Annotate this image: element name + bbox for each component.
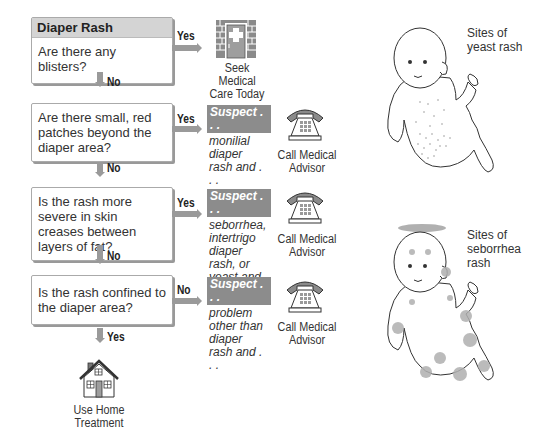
suspect-other-problem: Suspect . . . problem other than diaper … (207, 277, 269, 372)
question-box-confined: Is the rash confined to the diaper area? (31, 275, 173, 325)
call-medical-advisor-label: Call Medical Advisor (276, 149, 339, 175)
yes-label: Yes (177, 29, 195, 43)
question-text: Are there small, red patches beyond the … (32, 104, 172, 161)
seek-medical-care-label: Seek Medical Care Today (207, 62, 266, 101)
flowchart-title: Diaper Rash (32, 18, 172, 38)
yes-arrow (97, 328, 103, 338)
house-icon (78, 357, 120, 399)
suspect-text: monilial diaper rash and . . . (207, 135, 269, 187)
suspect-tag: Suspect . . . (207, 277, 271, 305)
no-arrow (97, 72, 103, 82)
call-medical-advisor-label: Call Medical Advisor (276, 233, 339, 259)
question-text: Is the rash confined to the diaper area? (32, 276, 172, 324)
use-home-treatment-label: Use Home Treatment (71, 404, 127, 430)
suspect-tag: Suspect . . . (207, 105, 271, 133)
yes-label: Yes (177, 112, 195, 126)
suspect-text: problem other than diaper rash and . . . (207, 307, 269, 372)
yes-label: Yes (107, 330, 125, 344)
no-label: No (107, 161, 121, 175)
yes-label: Yes (177, 196, 195, 210)
no-label: No (107, 75, 121, 89)
no-arrow (97, 245, 103, 259)
suspect-tag: Suspect . . . (207, 189, 271, 217)
no-label: No (177, 283, 191, 297)
yes-arrow (172, 45, 197, 51)
telephone-icon (285, 106, 325, 144)
no-arrow (97, 162, 103, 172)
suspect-monilial: Suspect . . . monilial diaper rash and .… (207, 105, 269, 187)
no-label: No (107, 249, 121, 263)
yes-arrow (172, 126, 197, 132)
yes-arrow (172, 211, 197, 217)
call-medical-advisor-label: Call Medical Advisor (276, 321, 339, 347)
hospital-door-icon (216, 18, 256, 58)
telephone-icon (285, 189, 325, 227)
seborrhea-rash-caption: Sites of seborrhea rash (467, 228, 527, 270)
telephone-icon (285, 278, 325, 316)
yeast-rash-caption: Sites of yeast rash (467, 26, 527, 54)
no-arrow (172, 298, 197, 304)
question-box-red-patches: Are there small, red patches beyond the … (31, 103, 173, 162)
